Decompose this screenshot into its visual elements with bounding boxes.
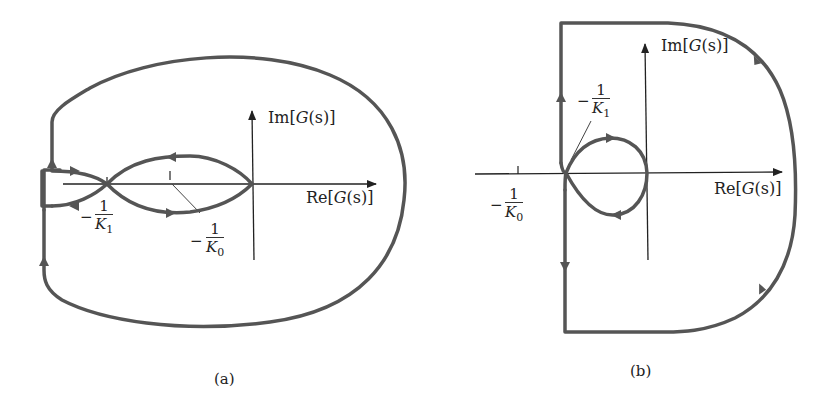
marker-k1-a: 1 K1 bbox=[95, 199, 113, 235]
nyquist-figure: Im[G(s)] Re[G(s)] − 1 K1 − 1 K0 (a) Im[G… bbox=[0, 0, 834, 408]
arrow-right-icon bbox=[606, 133, 616, 143]
arrow-up-icon bbox=[39, 256, 49, 266]
real-axis-label-a: Re[G(s)] bbox=[306, 190, 374, 206]
marker-k1-a-sign: − bbox=[80, 208, 93, 226]
leader-k1-b bbox=[571, 121, 591, 160]
caption-a: (a) bbox=[214, 370, 235, 388]
imag-axis-b bbox=[645, 44, 648, 260]
leader-k0-a bbox=[172, 184, 200, 213]
caption-b: (b) bbox=[630, 362, 651, 380]
real-axis-b bbox=[475, 172, 782, 174]
marker-k0-b-sign: − bbox=[490, 196, 503, 214]
marker-k0-a-sign: − bbox=[190, 232, 203, 250]
arrow-right-icon bbox=[166, 208, 176, 218]
imag-axis-label-b: Im[G(s)] bbox=[661, 38, 728, 54]
marker-k1-b-sign: − bbox=[577, 92, 590, 110]
real-axis-label-b: Re[G(s)] bbox=[714, 181, 782, 197]
marker-k0-a: 1 K0 bbox=[206, 222, 224, 258]
arrow-up-icon bbox=[47, 158, 57, 168]
arrow-up-icon bbox=[556, 92, 566, 102]
marker-k0-b: 1 K0 bbox=[505, 187, 523, 223]
imag-axis-label-a: Im[G(s)] bbox=[268, 110, 335, 126]
nyquist-diagrams-svg bbox=[0, 0, 834, 408]
arrow-left-icon bbox=[166, 152, 176, 162]
marker-k1-b: 1 K1 bbox=[592, 83, 610, 119]
arrow-left-icon bbox=[611, 210, 621, 220]
panel-b bbox=[475, 23, 796, 332]
arrow-down-icon bbox=[560, 262, 570, 272]
